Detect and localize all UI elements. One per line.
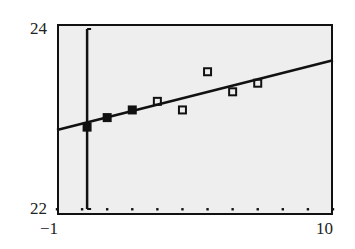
- data-point: [179, 106, 186, 113]
- data-point: [104, 114, 111, 121]
- axis-dot: [282, 208, 284, 210]
- axis-dot: [56, 208, 58, 210]
- data-point: [129, 106, 136, 113]
- x-min-label: −1: [40, 220, 58, 237]
- axis-dot: [131, 208, 133, 210]
- y-max-label: 24: [30, 20, 47, 37]
- axis-dot: [332, 208, 334, 210]
- axis-dot: [257, 208, 259, 210]
- y-min-label: 22: [30, 200, 47, 217]
- axis-dot: [181, 208, 183, 210]
- axis-dot: [307, 208, 309, 210]
- axis-dot: [156, 208, 158, 210]
- data-point: [204, 68, 211, 75]
- axis-dot: [106, 208, 108, 210]
- axis-dot: [81, 208, 83, 210]
- data-point: [84, 124, 91, 131]
- axis-dot: [206, 208, 208, 210]
- plot-area: [0, 0, 355, 249]
- regression-line: [57, 60, 333, 130]
- x-max-label: 10: [316, 220, 333, 237]
- data-point: [229, 88, 236, 95]
- axis-dot: [231, 208, 233, 210]
